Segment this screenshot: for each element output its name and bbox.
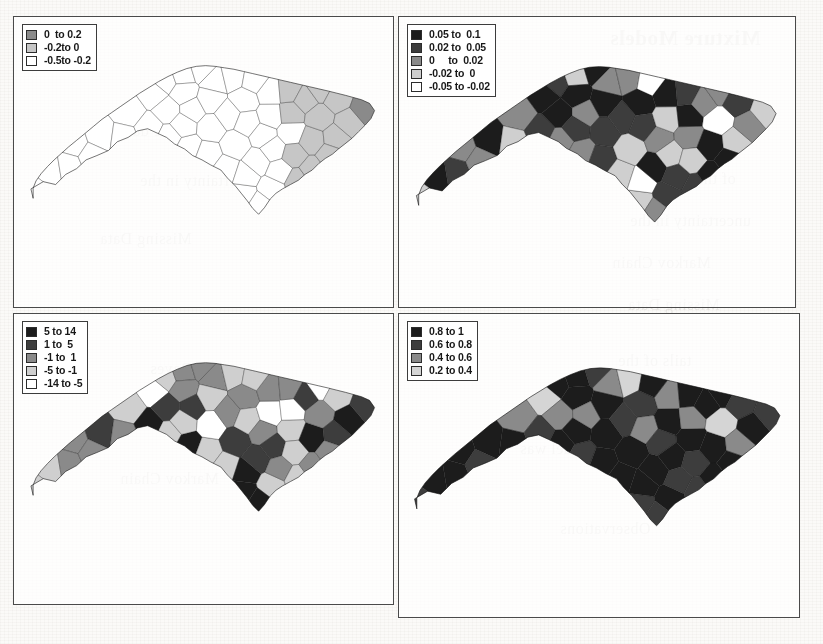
legend-top-right: 0.05 to 0.10.02 to 0.050 to 0.02-0.02 to…	[407, 24, 496, 97]
legend-row: 0.2 to 0.4	[411, 364, 472, 377]
county-polygon[interactable]	[85, 322, 169, 407]
legend-bottom-left: 5 to 141 to 5-1 to 1-5 to -1-14 to -5	[22, 321, 88, 394]
county-polygon[interactable]	[700, 314, 799, 408]
legend-swatch	[26, 353, 37, 363]
legend-swatch	[26, 327, 37, 337]
legend-label: 0 to 0.2	[44, 29, 81, 40]
county-polygon[interactable]	[284, 167, 393, 307]
county-polygon[interactable]	[299, 155, 393, 307]
county-polygon[interactable]	[315, 144, 393, 307]
legend-label: 1 to 5	[44, 339, 73, 350]
county-polygon[interactable]	[137, 314, 195, 381]
legend-swatch	[26, 379, 37, 389]
county-polygon[interactable]	[575, 197, 753, 307]
county-polygon[interactable]	[538, 127, 574, 205]
county-polygon[interactable]	[145, 134, 202, 251]
county-polygon[interactable]	[538, 429, 575, 508]
county-polygon[interactable]	[182, 488, 352, 604]
legend-swatch	[411, 56, 422, 66]
county-polygon[interactable]	[575, 501, 756, 617]
legend-row: 5 to 14	[26, 325, 82, 338]
legend-row: 0.6 to 0.8	[411, 338, 472, 351]
county-polygon[interactable]	[442, 458, 526, 609]
county-polygon[interactable]	[137, 480, 258, 604]
county-polygon[interactable]	[57, 448, 136, 590]
county-polygon[interactable]	[561, 462, 637, 539]
county-polygon[interactable]	[528, 17, 589, 86]
legend-swatch	[411, 327, 422, 337]
county-polygon[interactable]	[300, 314, 393, 400]
county-polygon[interactable]	[472, 325, 561, 416]
legend-label: 0.05 to 0.1	[429, 29, 480, 40]
county-polygon[interactable]	[137, 17, 195, 84]
county-polygon[interactable]	[300, 17, 393, 103]
legend-swatch	[26, 340, 37, 350]
county-polygon[interactable]	[315, 441, 393, 604]
county-polygon[interactable]	[57, 151, 136, 293]
legend-row: -0.2to 0	[26, 41, 91, 54]
legend-label: -0.2to 0	[44, 42, 79, 53]
legend-swatch	[411, 340, 422, 350]
legend-swatch	[411, 30, 422, 40]
county-polygon[interactable]	[682, 173, 795, 307]
county-polygon[interactable]	[443, 156, 526, 305]
county-polygon[interactable]	[536, 440, 597, 565]
legend-label: -0.5to -0.2	[44, 55, 91, 66]
legend-label: 0.6 to 0.8	[429, 339, 472, 350]
county-polygon[interactable]	[528, 314, 590, 387]
county-polygon[interactable]	[299, 452, 393, 604]
legend-top-left: 0 to 0.2-0.2to 0-0.5to -0.2	[22, 24, 97, 71]
county-polygon[interactable]	[284, 464, 393, 604]
legend-swatch	[411, 82, 422, 92]
county-polygon[interactable]	[753, 314, 799, 527]
county-polygon[interactable]	[536, 138, 596, 261]
legend-swatch	[26, 43, 37, 53]
county-polygon[interactable]	[78, 142, 148, 295]
county-polygon[interactable]	[182, 191, 352, 307]
county-polygon[interactable]	[699, 463, 799, 617]
legend-row: -0.05 to -0.02	[411, 80, 490, 93]
legend-label: 5 to 14	[44, 326, 76, 337]
legend-swatch	[26, 56, 37, 66]
county-polygon[interactable]	[145, 431, 202, 548]
legend-swatch	[411, 366, 422, 376]
county-polygon[interactable]	[466, 146, 539, 306]
county-polygon[interactable]	[714, 148, 795, 307]
legend-bottom-right: 0.8 to 10.6 to 0.80.4 to 0.60.2 to 0.4	[407, 321, 478, 381]
county-polygon[interactable]	[169, 154, 240, 227]
legend-label: -1 to 1	[44, 352, 76, 363]
panel-top-right: 0.05 to 0.10.02 to 0.050 to 0.02-0.02 to…	[398, 16, 796, 308]
county-polygon[interactable]	[697, 160, 795, 307]
legend-swatch	[26, 30, 37, 40]
legend-swatch	[26, 366, 37, 376]
legend-label: 0 to 0.02	[429, 55, 483, 66]
legend-swatch	[411, 69, 422, 79]
panel-bottom-right: 0.8 to 10.6 to 0.80.4 to 0.60.2 to 0.4	[398, 313, 800, 618]
legend-row: 0.4 to 0.6	[411, 351, 472, 364]
county-polygon[interactable]	[465, 449, 539, 611]
county-polygon[interactable]	[527, 190, 653, 307]
legend-row: -0.02 to 0	[411, 67, 490, 80]
legend-row: 0.05 to 0.1	[411, 28, 490, 41]
legend-label: 0.02 to 0.05	[429, 42, 486, 53]
legend-row: 0.02 to 0.05	[411, 41, 490, 54]
county-polygon[interactable]	[85, 25, 169, 110]
county-polygon[interactable]	[169, 451, 240, 524]
county-polygon[interactable]	[147, 124, 182, 199]
legend-label: -0.05 to -0.02	[429, 81, 490, 92]
panel-bottom-left: 5 to 141 to 5-1 to 1-5 to -1-14 to -5	[13, 313, 394, 605]
county-polygon[interactable]	[137, 183, 258, 307]
legend-label: 0.8 to 1	[429, 326, 464, 337]
county-polygon[interactable]	[716, 451, 799, 617]
county-polygon[interactable]	[561, 159, 635, 235]
legend-row: 1 to 5	[26, 338, 82, 351]
county-polygon[interactable]	[527, 493, 655, 617]
legend-label: -5 to -1	[44, 365, 77, 376]
legend-row: -0.5to -0.2	[26, 54, 91, 67]
county-polygon[interactable]	[147, 421, 182, 496]
county-polygon[interactable]	[78, 439, 148, 592]
county-polygon[interactable]	[698, 17, 795, 106]
legend-row: -5 to -1	[26, 364, 82, 377]
county-polygon[interactable]	[684, 476, 799, 617]
legend-label: 0.2 to 0.4	[429, 365, 472, 376]
